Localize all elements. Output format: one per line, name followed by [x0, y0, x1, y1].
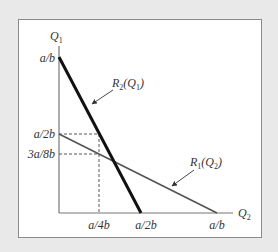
x-tick-label-a-over-2b: a/2b [135, 218, 156, 232]
r2-label-arrow [92, 90, 113, 104]
y-axis-label: Q1 [50, 29, 63, 45]
y-tick-label-a-over-b: a/b [40, 51, 55, 65]
r1-label-arrow [172, 170, 194, 186]
r1-reaction-line [59, 134, 217, 213]
r2-curve-label: R2(Q1) [111, 76, 144, 92]
x-axis-label: Q2 [238, 206, 251, 222]
y-tick-label-3a-over-8b: 3a/8b [27, 147, 55, 161]
reaction-function-diagram: Q1 Q2 a/b a/2b 3a/8b a/4b a/2b a/b R2(Q1… [0, 0, 278, 252]
y-tick-label-a-over-2b: a/2b [34, 127, 55, 141]
dashed-guides [59, 134, 99, 213]
x-tick-label-a-over-4b: a/4b [88, 218, 109, 232]
r1-curve-label: R1(Q2) [189, 155, 222, 171]
x-tick-label-a-over-b: a/b [209, 218, 224, 232]
